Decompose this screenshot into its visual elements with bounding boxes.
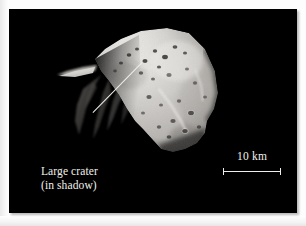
scale-bar-label: 10 km (221, 150, 283, 163)
scale-bar: 10 km (221, 150, 283, 176)
scale-bar-line (223, 171, 281, 172)
asteroid-photograph: Large crater (in shadow) 10 km (9, 9, 297, 213)
scale-bar-tick-right (280, 168, 281, 175)
figure-page: Large crater (in shadow) 10 km (0, 0, 306, 226)
crater-annotation-line2: (in shadow) (41, 178, 98, 192)
paper-edge-left (0, 0, 9, 226)
paper-edge-bottom (0, 216, 306, 226)
crater-annotation-line1: Large crater (41, 165, 98, 177)
scale-bar-rule (223, 168, 281, 175)
scale-bar-tick-left (223, 168, 224, 175)
crater-annotation: Large crater (in shadow) (41, 164, 98, 192)
